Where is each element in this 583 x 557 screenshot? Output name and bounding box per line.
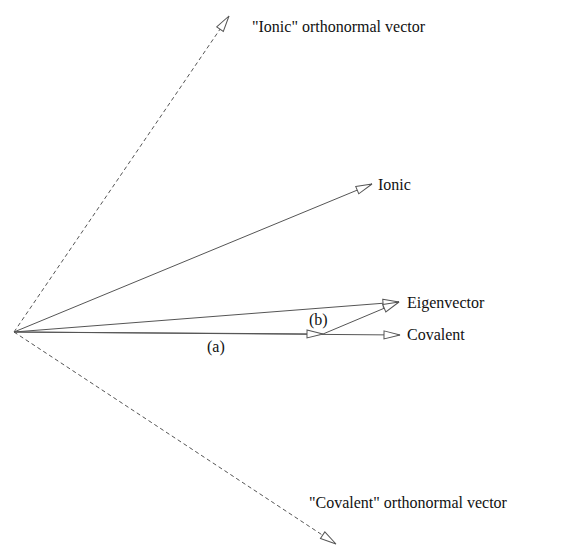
covalent-orthonormal-vector-line <box>14 332 336 544</box>
vector-diagram: "Ionic" orthonormal vector Ionic Eigenve… <box>0 0 583 557</box>
eigenvector-label: Eigenvector <box>407 294 485 312</box>
covalent-label: Covalent <box>407 326 465 343</box>
ionic-label: Ionic <box>378 176 411 193</box>
eigenvector-line <box>14 302 399 332</box>
component-b-label: (b) <box>309 311 328 329</box>
ionic-orthonormal-vector-line <box>14 16 229 332</box>
covalent-orthonormal-label: "Covalent" orthonormal vector <box>309 494 508 511</box>
ionic-vector-line <box>14 184 372 332</box>
component-a-label: (a) <box>207 338 225 356</box>
ionic-orthonormal-label: "Ionic" orthonormal vector <box>252 18 426 35</box>
